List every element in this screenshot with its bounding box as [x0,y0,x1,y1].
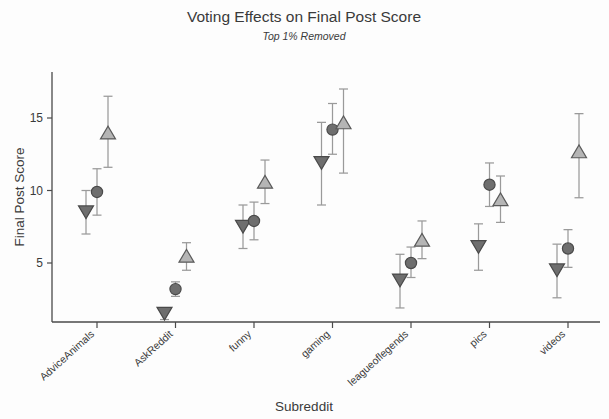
y-tick-label: 10 [30,184,44,198]
marker-circle [562,243,573,254]
marker-circle [170,284,181,295]
y-axis-title: Final Post Score [12,147,27,246]
y-tick-label: 15 [30,111,44,125]
chart-title: Voting Effects on Final Post Score [187,8,421,25]
x-axis-title-label: Subreddit [275,399,333,414]
chart-subtitle: Top 1% Removed [262,30,346,42]
y-tick-label: 5 [36,256,43,270]
marker-circle [405,257,416,268]
marker-circle [484,179,495,190]
chart-figure: Voting Effects on Final Post Score Top 1… [0,0,609,419]
marker-circle [91,186,102,197]
marker-circle [327,124,338,135]
voting-effects-scatter-chart: Voting Effects on Final Post Score Top 1… [0,0,609,419]
marker-circle [248,215,259,226]
y-axis-title-label: Final Post Score [12,147,27,246]
